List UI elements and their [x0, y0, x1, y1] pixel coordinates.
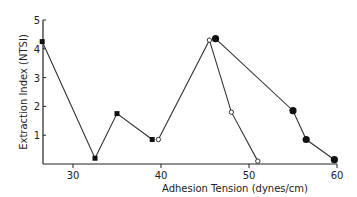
y-tick-label: 2	[34, 101, 40, 112]
data-point	[150, 137, 155, 142]
data-point	[212, 35, 219, 42]
data-point	[331, 156, 338, 163]
x-tick-label: 30	[67, 170, 80, 181]
series-filled-circles	[212, 35, 338, 163]
data-point	[156, 137, 160, 141]
series-open-circles	[156, 38, 260, 163]
x-tick-label: 60	[331, 170, 344, 181]
series-line	[42, 42, 152, 159]
data-point	[256, 159, 260, 163]
series-line	[216, 39, 335, 160]
x-tick-label: 40	[155, 170, 168, 181]
axes: 1234530405060	[34, 15, 344, 181]
data-point	[229, 110, 233, 114]
data-point	[115, 111, 120, 116]
data-point	[40, 39, 45, 44]
data-point	[93, 156, 98, 161]
y-axis-label: Extraction Index (NTSI)	[18, 34, 29, 150]
chart: 1234530405060 Adhesion Tension (dynes/cm…	[0, 0, 357, 197]
x-tick-label: 50	[243, 170, 256, 181]
x-axis-label: Adhesion Tension (dynes/cm)	[162, 183, 308, 194]
series-squares	[40, 39, 155, 161]
data-point	[207, 38, 211, 42]
series-line	[158, 40, 257, 161]
y-tick-label: 3	[34, 73, 40, 84]
y-tick-label: 5	[34, 15, 40, 26]
data-point	[303, 136, 310, 143]
y-tick-label: 1	[34, 130, 40, 141]
plot-area	[40, 35, 338, 163]
y-tick-label: 4	[34, 44, 40, 55]
data-point	[289, 107, 296, 114]
